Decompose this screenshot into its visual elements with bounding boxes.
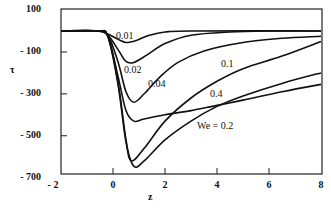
x-tick-label: - 2	[41, 179, 65, 190]
y-axis-ticks	[61, 52, 67, 136]
curve-0-4	[61, 31, 321, 122]
y-tick-label: 100	[1, 3, 41, 14]
x-tick-label: 6	[257, 179, 281, 190]
curve-label-0-4: 0.4	[210, 88, 223, 99]
curve-label-we-0-2: We = 0.2	[197, 120, 233, 131]
x-tick-label: 8	[309, 179, 331, 190]
y-tick-label: - 500	[1, 129, 41, 140]
data-curves	[61, 31, 321, 168]
curve-0-1	[61, 31, 321, 161]
curve-label-0-01: 0.01	[116, 30, 134, 41]
curve-label-0-04: 0.04	[148, 78, 166, 89]
x-axis-title: z	[148, 191, 152, 202]
y-tick-label: - 700	[1, 171, 41, 182]
curve-label-0-1: 0.1	[221, 58, 234, 69]
y-tick-label: - 300	[1, 87, 41, 98]
y-axis-title: τ	[10, 64, 15, 75]
y-tick-label: - 100	[1, 45, 41, 56]
x-tick-label: 4	[205, 179, 229, 190]
curve-0-01	[61, 31, 321, 43]
curve-0-02	[61, 31, 321, 63]
x-tick-label: 2	[153, 179, 177, 190]
x-axis-ticks	[113, 168, 269, 174]
curve-label-0-02: 0.02	[124, 64, 142, 75]
x-tick-label: 0	[101, 179, 125, 190]
